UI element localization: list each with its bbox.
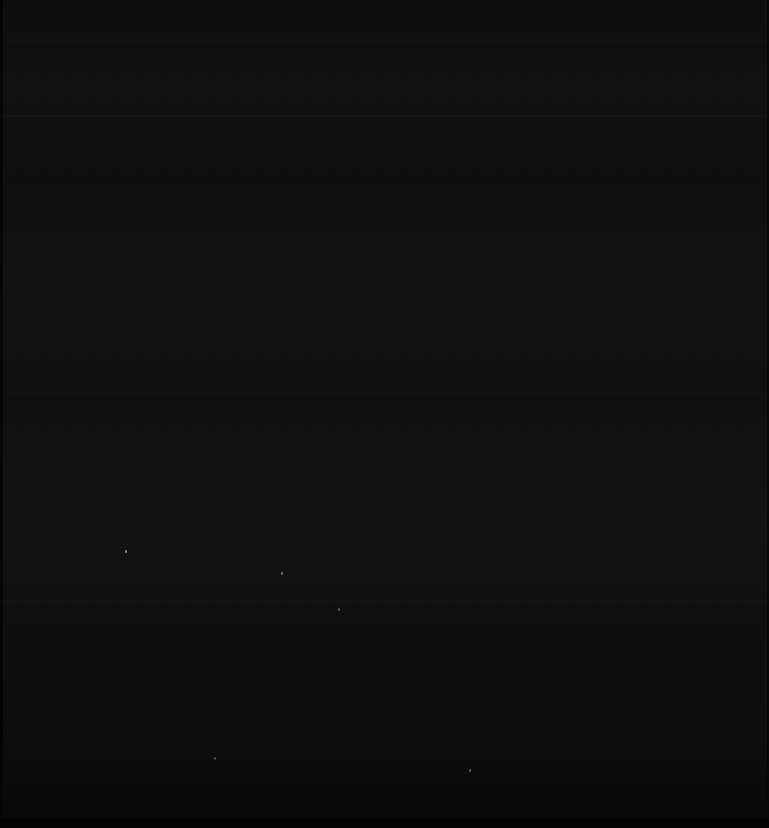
content-region xyxy=(0,0,769,828)
screen-edge-left xyxy=(0,0,3,828)
screen-edge-bottom xyxy=(0,818,769,828)
screen-capture xyxy=(0,0,769,828)
